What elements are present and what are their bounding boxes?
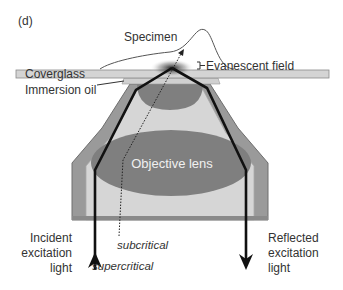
specimen-label: Specimen [124,30,177,44]
panel-label: (d) [18,14,33,28]
coverglass-label: Coverglass [25,67,85,81]
supercritical-label: supercritical [92,260,154,272]
immersion-oil-label: Immersion oil [25,83,96,97]
immersion-oil [122,78,220,84]
immersion-oil-pointer [97,81,124,85]
evanescent-bracket [197,62,205,69]
reflected-label-2: excitation [268,246,319,260]
tirf-diagram: Objective lens (d) Specimen Evanescent f… [0,0,343,290]
incident-label-1: Incident [30,231,73,245]
subcritical-label: subcritical [117,239,169,251]
incident-label-3: light [50,261,73,275]
incident-label-2: excitation [21,246,72,260]
evanescent-field-label: Evanescent field [206,59,294,73]
objective-lens-label: Objective lens [131,156,213,171]
reflected-label-3: light [268,261,291,275]
reflected-label-1: Reflected [268,231,319,245]
subcritical-arrowhead-icon [178,49,184,56]
